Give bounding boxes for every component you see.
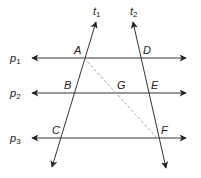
label-p1: p1 <box>9 52 21 66</box>
label-t2: t2 <box>130 5 138 19</box>
dashed-segment-af <box>84 58 157 138</box>
label-p3: p3 <box>9 132 21 146</box>
label-t1: t1 <box>93 5 101 19</box>
point-c: C <box>52 124 60 136</box>
point-f: F <box>161 124 169 136</box>
point-b: B <box>64 79 71 91</box>
geometry-diagram: p1 p2 p3 t1 t2 A B C D E F G <box>0 0 201 178</box>
label-p2: p2 <box>9 87 21 101</box>
point-g: G <box>117 79 126 91</box>
point-d: D <box>143 44 151 56</box>
point-e: E <box>151 79 159 91</box>
point-a: A <box>73 44 81 56</box>
